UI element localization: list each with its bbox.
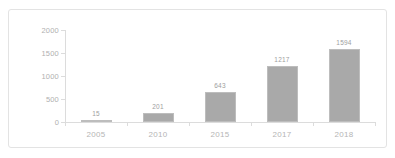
chart-frame: 2000150010005000 1520164312171594 200520…	[8, 9, 387, 148]
x-axis-tick-mark	[313, 122, 314, 126]
x-axis-tick-mark	[127, 122, 128, 126]
bar-group: 1217	[267, 30, 298, 122]
bar[interactable]	[81, 120, 112, 122]
x-axis-tick-mark	[65, 122, 66, 126]
y-axis-tick-label: 2000	[42, 26, 60, 35]
x-axis-tick-mark	[375, 122, 376, 126]
bar-group: 15	[81, 30, 112, 122]
x-axis-category-label: 2017	[256, 130, 308, 139]
y-axis-tick-label: 1000	[42, 72, 60, 81]
x-axis-tick-mark	[251, 122, 252, 126]
y-axis-tick-label: 1500	[42, 49, 60, 58]
y-axis-tick-label: 0	[55, 118, 59, 127]
y-axis-tick-mark	[61, 76, 65, 77]
y-axis-tick-labels: 2000150010005000	[13, 30, 59, 122]
bar[interactable]	[329, 49, 360, 122]
x-axis-category-label: 2018	[318, 130, 370, 139]
bar-value-label: 643	[205, 82, 236, 89]
x-axis-category-label: 2010	[132, 130, 184, 139]
bar-group: 643	[205, 30, 236, 122]
y-axis-line	[65, 30, 66, 122]
bar-value-label: 15	[81, 110, 112, 117]
bar-value-label: 1217	[267, 56, 298, 63]
bar[interactable]	[205, 92, 236, 122]
y-axis-tick-mark	[61, 53, 65, 54]
x-axis-tick-mark	[189, 122, 190, 126]
bar[interactable]	[267, 66, 298, 122]
y-axis-tick-label: 500	[46, 95, 59, 104]
plot-area: 2000150010005000 1520164312171594	[65, 30, 375, 122]
x-axis-category-label: 2015	[194, 130, 246, 139]
y-axis-tick-mark	[61, 99, 65, 100]
x-axis-line	[65, 122, 375, 123]
bar-group: 1594	[329, 30, 360, 122]
bar-value-label: 201	[143, 103, 174, 110]
bar-value-label: 1594	[329, 39, 360, 46]
y-axis-tick-mark	[61, 30, 65, 31]
x-axis-category-label: 2005	[70, 130, 122, 139]
bar[interactable]	[143, 113, 174, 122]
bar-group: 201	[143, 30, 174, 122]
